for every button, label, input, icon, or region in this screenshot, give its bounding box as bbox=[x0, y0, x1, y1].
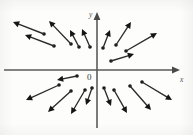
vector-shaft bbox=[114, 90, 125, 109]
field-vector bbox=[101, 30, 110, 50]
vector-shaft bbox=[17, 24, 44, 34]
field-vector bbox=[71, 88, 87, 114]
vector-shaft bbox=[88, 88, 92, 101]
field-vector bbox=[114, 22, 131, 47]
vector-shaft bbox=[111, 55, 130, 61]
field-vector bbox=[112, 88, 127, 113]
vector-shaft bbox=[130, 86, 148, 107]
y-axis-label: y bbox=[88, 10, 93, 19]
field-vector bbox=[57, 74, 79, 82]
field-vector bbox=[25, 34, 56, 47]
vector-shaft bbox=[84, 33, 90, 47]
field-vector bbox=[102, 86, 111, 106]
field-vector bbox=[49, 21, 73, 46]
y-axis-arrowhead bbox=[94, 12, 101, 20]
field-vector bbox=[82, 29, 92, 49]
vector-shaft bbox=[116, 26, 128, 45]
x-axis-label: x bbox=[179, 75, 184, 84]
vector-shaft bbox=[126, 35, 153, 51]
vector-shaft bbox=[62, 76, 77, 79]
vector-shaft bbox=[30, 85, 59, 98]
vector-field-canvas: x y 0 bbox=[0, 0, 193, 135]
vector-shaft bbox=[103, 34, 108, 48]
vector-shaft bbox=[73, 90, 85, 110]
field-vector bbox=[128, 84, 151, 110]
vector-arrows-group bbox=[13, 21, 172, 114]
origin-label: 0 bbox=[87, 72, 92, 82]
direction-field-figure: x y 0 bbox=[0, 0, 193, 135]
vector-arrowhead bbox=[125, 22, 131, 29]
vector-shaft bbox=[51, 91, 71, 109]
field-vector bbox=[124, 33, 157, 53]
vector-shaft bbox=[142, 82, 168, 98]
vector-arrowhead bbox=[57, 76, 64, 82]
vector-shaft bbox=[29, 37, 54, 46]
field-vector bbox=[48, 89, 73, 112]
x-axis-arrowhead bbox=[172, 67, 180, 74]
field-vector bbox=[109, 53, 134, 63]
vector-shaft bbox=[52, 24, 71, 44]
vector-shaft bbox=[104, 88, 109, 102]
field-vector bbox=[26, 83, 61, 100]
vector-arrowhead bbox=[127, 53, 134, 59]
field-vector bbox=[70, 30, 81, 49]
field-vector bbox=[140, 80, 172, 100]
field-vector bbox=[13, 21, 46, 35]
vector-shaft bbox=[72, 34, 79, 47]
